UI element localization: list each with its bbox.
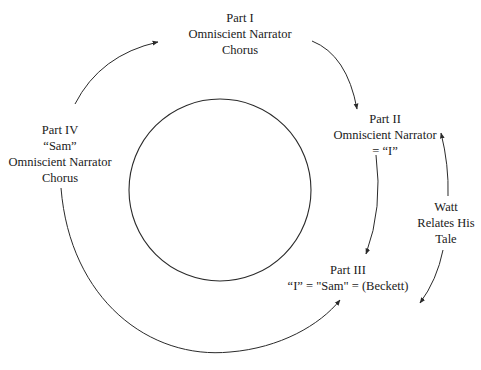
node-watt-line-2: Relates His xyxy=(417,215,474,231)
node-part-3: Part III “I” = "Sam" = (Beckett) xyxy=(288,262,409,294)
node-part-1-line-2: Omniscient Narrator xyxy=(188,26,291,42)
node-part-4: Part IV “Sam” Omniscient Narrator Chorus xyxy=(8,122,111,186)
edge-watt-to-part2 xyxy=(441,133,448,196)
node-watt-line-3: Tale xyxy=(417,231,474,247)
edge-part1-to-part2 xyxy=(312,41,357,109)
center-circle xyxy=(129,99,311,281)
node-part-4-line-2: “Sam” xyxy=(8,138,111,154)
node-part-2: Part II Omniscient Narrator = “I” xyxy=(333,111,436,159)
edge-part4-to-part1 xyxy=(75,42,158,104)
node-watt-line-1: Watt xyxy=(417,199,474,215)
node-part-1-line-3: Chorus xyxy=(188,42,291,58)
node-part-4-title: Part IV xyxy=(8,122,111,138)
node-part-3-line-2: “I” = "Sam" = (Beckett) xyxy=(288,278,409,294)
node-part-1-title: Part I xyxy=(188,10,291,26)
node-part-2-title: Part II xyxy=(333,111,436,127)
node-part-3-title: Part III xyxy=(288,262,409,278)
node-part-4-line-4: Chorus xyxy=(8,170,111,186)
node-part-1: Part I Omniscient Narrator Chorus xyxy=(188,10,291,58)
node-watt: Watt Relates His Tale xyxy=(417,199,474,247)
node-part-2-line-3: = “I” xyxy=(333,143,436,159)
node-part-2-line-2: Omniscient Narrator xyxy=(333,127,436,143)
node-part-4-line-3: Omniscient Narrator xyxy=(8,154,111,170)
edge-watt-to-part3 xyxy=(420,250,443,303)
edge-part2-to-part3 xyxy=(366,155,378,254)
